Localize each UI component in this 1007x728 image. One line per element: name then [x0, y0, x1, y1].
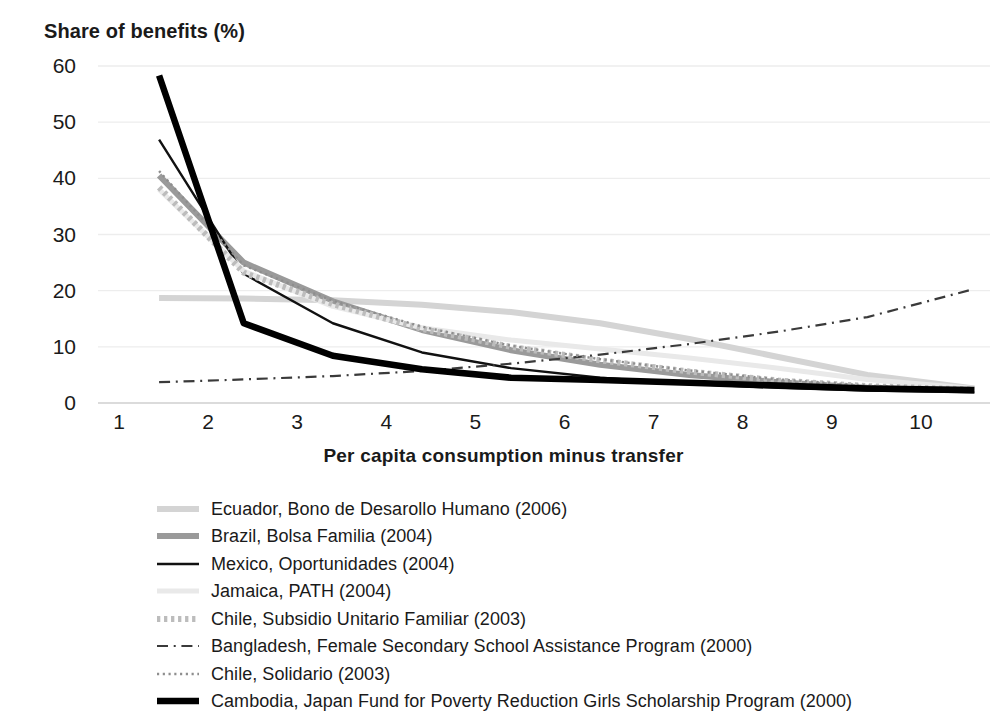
- line-key-black-thick-solid: [155, 692, 201, 710]
- legend-item-label: Ecuador, Bono de Desarollo Humano (2006): [211, 500, 567, 518]
- legend-item-label: Bangladesh, Female Secondary School Assi…: [211, 637, 752, 655]
- legend-item[interactable]: Ecuador, Bono de Desarollo Humano (2006): [155, 495, 1005, 523]
- legend-item[interactable]: Jamaica, PATH (2004): [155, 578, 1005, 606]
- legend-item[interactable]: Chile, Solidario (2003): [155, 660, 1005, 688]
- chart-legend: Ecuador, Bono de Desarollo Humano (2006)…: [155, 495, 1005, 715]
- gridlines: [98, 66, 990, 347]
- legend-item-label: Brazil, Bolsa Familia (2004): [211, 527, 432, 545]
- line-key-gray-solid: [155, 527, 201, 545]
- legend-item-label: Cambodia, Japan Fund for Poverty Reducti…: [211, 692, 852, 710]
- plot-area: [0, 0, 1007, 470]
- chart-figure: Share of benefits (%) 6050403020100 1234…: [0, 0, 1007, 728]
- line-key-very-light-gray-solid: [155, 582, 201, 600]
- legend-item[interactable]: Brazil, Bolsa Familia (2004): [155, 523, 1005, 551]
- legend-item[interactable]: Mexico, Oportunidades (2004): [155, 550, 1005, 578]
- legend-item-label: Chile, Solidario (2003): [211, 665, 390, 683]
- legend-item-label: Mexico, Oportunidades (2004): [211, 555, 455, 573]
- line-key-gray-dotted-thick: [155, 610, 201, 628]
- legend-item-label: Jamaica, PATH (2004): [211, 582, 391, 600]
- legend-item[interactable]: Cambodia, Japan Fund for Poverty Reducti…: [155, 688, 1005, 716]
- line-key-gray-dotted-fine: [155, 665, 201, 683]
- legend-item-label: Chile, Subsidio Unitario Familiar (2003): [211, 610, 526, 628]
- legend-item[interactable]: Bangladesh, Female Secondary School Assi…: [155, 633, 1005, 661]
- x-axis-title: Per capita consumption minus transfer: [0, 445, 1007, 467]
- line-key-light-gray-solid: [155, 500, 201, 518]
- line-key-dash-dot: [155, 637, 201, 655]
- legend-item[interactable]: Chile, Subsidio Unitario Familiar (2003): [155, 605, 1005, 633]
- line-key-black-thin-solid: [155, 555, 201, 573]
